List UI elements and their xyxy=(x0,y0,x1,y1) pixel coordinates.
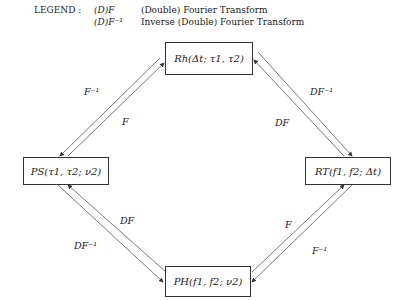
node-ps: PS(τ1, τ2; ν2) xyxy=(23,157,109,185)
label-top-left-inner: F xyxy=(122,116,129,127)
arrow-top-right-outer xyxy=(258,52,352,156)
label-top-left-outer: F⁻¹ xyxy=(84,86,99,97)
label-bottom-right-inner: F xyxy=(285,219,292,230)
arrow-top-left-outer xyxy=(60,58,160,156)
node-rt: RT(f1, f2; Δt) xyxy=(305,157,391,185)
node-ph-label: PH(f1, f2; ν2) xyxy=(174,276,243,287)
node-rh: Rh(Δt; τ1, τ2) xyxy=(165,42,253,75)
label-bottom-right-outer: F⁻¹ xyxy=(312,245,327,256)
arrow-top-right-inner xyxy=(254,60,344,156)
node-rt-label: RT(f1, f2; Δt) xyxy=(315,166,381,177)
label-bottom-left-inner: DF xyxy=(120,215,134,226)
node-rh-label: Rh(Δt; τ1, τ2) xyxy=(174,53,244,64)
arrow-bottom-right-inner xyxy=(252,185,344,272)
arrow-bottom-left-inner xyxy=(68,185,166,272)
arrow-top-left-inner xyxy=(68,63,164,156)
label-top-right-outer: DF⁻¹ xyxy=(310,86,333,97)
node-ps-label: PS(τ1, τ2; ν2) xyxy=(31,166,102,177)
arrow-bottom-right-outer xyxy=(252,185,352,282)
node-ph: PH(f1, f2; ν2) xyxy=(165,266,251,297)
label-bottom-left-outer: DF⁻¹ xyxy=(74,240,97,251)
label-top-right-inner: DF xyxy=(275,117,289,128)
arrow-bottom-left-outer xyxy=(58,185,163,282)
